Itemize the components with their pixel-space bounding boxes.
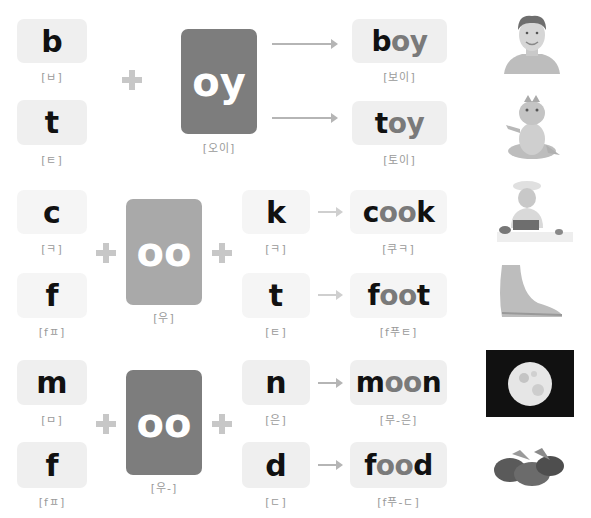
word-box-food: food [350, 442, 447, 488]
onset-pron: [ㅁ] [17, 411, 87, 427]
onset-letter: f [45, 278, 58, 313]
coda-letter: d [265, 448, 286, 483]
onset-letter: b [41, 24, 62, 59]
word-pron: [토이] [352, 151, 447, 167]
foot-photo-icon [498, 265, 564, 321]
word-vowel: oy [391, 25, 428, 58]
vowel-pron: [우] [126, 309, 202, 325]
plus-icon [122, 70, 142, 90]
coda-box-n: n [242, 360, 310, 405]
word-vowel: oy [388, 107, 425, 140]
plus-icon [212, 414, 232, 434]
word-start: b [371, 25, 391, 58]
vowel-card-oo: oo [126, 199, 202, 305]
word-start: f [367, 279, 379, 312]
onset-letter: f [45, 448, 58, 483]
vowel-card-oy: oy [181, 29, 257, 134]
coda-letter: t [269, 278, 283, 313]
word-box-cook: cook [350, 190, 447, 234]
coda-pron: [은] [242, 411, 310, 427]
plus-icon [96, 243, 116, 263]
word-vowel: oo [379, 279, 416, 312]
word-end: t [417, 279, 430, 312]
coda-letter: n [265, 365, 286, 400]
moon-photo-icon [486, 350, 574, 417]
onset-pron: [ㅋ] [17, 240, 87, 256]
onset-pron: [ㅂ] [17, 68, 87, 84]
onset-pron: [fㅍ] [17, 493, 87, 509]
word-end: k [416, 196, 434, 229]
onset-box-f: f [17, 273, 87, 318]
arrow-icon [318, 460, 344, 470]
arrow-icon [272, 39, 338, 49]
vowel-label: oo [137, 400, 192, 446]
word-end: n [422, 366, 441, 399]
word-box-moon: moon [350, 360, 447, 405]
word-box-foot: foot [350, 273, 447, 318]
onset-letter: t [45, 105, 59, 140]
coda-pron: [ㅌ] [242, 323, 310, 339]
onset-box-b: b [17, 19, 87, 63]
coda-pron: [ㅋ] [242, 240, 310, 256]
word-pron: [쿠ㅋ] [350, 240, 447, 256]
vowel-pron: [오이] [181, 139, 257, 155]
arrow-icon [318, 207, 344, 217]
word-start: c [363, 196, 379, 229]
word-start: t [375, 107, 388, 140]
arrow-icon [318, 378, 344, 388]
food-photo-icon [490, 440, 568, 490]
coda-box-t: t [242, 273, 310, 318]
word-pron: [무-은] [350, 411, 447, 427]
vowel-label: oo [137, 229, 192, 275]
word-vowel: oo [384, 366, 421, 399]
plus-icon [96, 414, 116, 434]
toy-dragon-photo-icon [502, 93, 564, 163]
coda-pron: [ㄷ] [242, 493, 310, 509]
vowel-pron: [우-] [126, 479, 202, 495]
boy-photo-icon [500, 8, 564, 74]
word-pron: [보이] [352, 68, 447, 84]
coda-box-k: k [242, 190, 310, 234]
arrow-icon [318, 290, 344, 300]
cook-child-photo-icon [497, 180, 573, 246]
word-box-toy: toy [352, 101, 447, 145]
word-pron: [f푸ㅌ] [350, 323, 447, 339]
word-start: m [356, 366, 385, 399]
onset-letter: c [43, 195, 61, 230]
onset-box-m: m [17, 360, 87, 405]
onset-box-t: t [17, 100, 87, 145]
arrow-icon [272, 113, 338, 123]
word-vowel: oo [376, 449, 413, 482]
coda-letter: k [266, 195, 286, 230]
vowel-card-oo: oo [126, 370, 202, 475]
onset-box-c: c [17, 190, 87, 234]
word-vowel: oo [379, 196, 416, 229]
plus-icon [212, 243, 232, 263]
onset-pron: [fㅍ] [17, 323, 87, 339]
coda-box-d: d [242, 442, 310, 488]
word-box-boy: boy [352, 19, 447, 63]
word-pron: [f푸-ㄷ] [350, 493, 447, 509]
word-end: d [413, 449, 433, 482]
vowel-label: oy [192, 59, 246, 105]
onset-box-f: f [17, 442, 87, 488]
onset-pron: [ㅌ] [17, 151, 87, 167]
onset-letter: m [36, 365, 67, 400]
word-start: f [364, 449, 376, 482]
